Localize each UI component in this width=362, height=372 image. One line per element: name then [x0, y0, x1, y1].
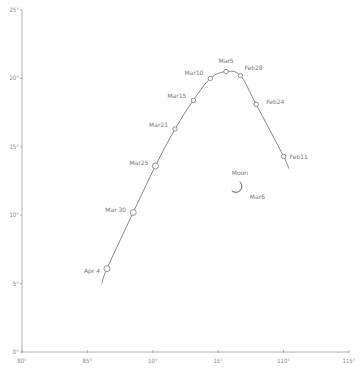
data-point-label: Mar5: [218, 57, 233, 64]
data-points: Apr 4Mar 30Mar25Mar21Mar15Mar10Mar5Feb28…: [84, 57, 308, 275]
data-point-label: Mar 30: [105, 206, 126, 213]
y-ticks: 0°5°10°15°20°25°: [9, 6, 22, 355]
y-tick-label: 5°: [13, 280, 19, 287]
data-point-marker: [130, 209, 136, 215]
x-tick-label: 10°: [148, 357, 158, 364]
x-tick-label: 80°: [17, 357, 27, 364]
data-point-label: Mar10: [184, 69, 203, 76]
moon-crescent-icon: [232, 182, 242, 193]
x-tick-label: 85°: [83, 357, 93, 364]
data-point-label: Feb28: [244, 64, 262, 71]
data-point-marker: [238, 73, 242, 77]
x-tick-label: 115°: [343, 357, 356, 364]
data-point-marker: [152, 163, 158, 169]
data-point-marker: [254, 102, 258, 106]
moon-annotation: MoonMar6: [232, 169, 265, 200]
data-point-marker: [191, 98, 195, 102]
data-point-marker: [224, 69, 228, 73]
moon-label: Moon: [232, 169, 249, 176]
y-tick-label: 15°: [9, 143, 19, 150]
x-tick-label: 15°: [213, 357, 223, 364]
comet-path-line: [102, 71, 289, 283]
data-point-label: Mar21: [149, 121, 168, 128]
y-tick-label: 25°: [9, 6, 19, 13]
data-point-marker: [173, 127, 177, 131]
x-tick-label: 110°: [277, 357, 290, 364]
moon-date-label: Mar6: [250, 193, 265, 200]
data-point-marker: [104, 266, 110, 272]
data-point-marker: [281, 154, 285, 158]
data-point-label: Mar15: [167, 92, 186, 99]
y-tick-label: 0°: [13, 348, 19, 355]
data-point-label: Feb11: [290, 153, 308, 160]
y-tick-label: 20°: [9, 74, 19, 81]
y-tick-label: 10°: [9, 211, 19, 218]
data-point-marker: [208, 76, 212, 80]
axes: [22, 10, 349, 352]
chart: 80°85°10°15°110°115° 0°5°10°15°20°25° Ap…: [0, 0, 362, 372]
data-point-label: Apr 4: [84, 267, 100, 275]
data-point-label: Mar25: [129, 159, 148, 166]
data-point-label: Feb24: [266, 98, 284, 105]
